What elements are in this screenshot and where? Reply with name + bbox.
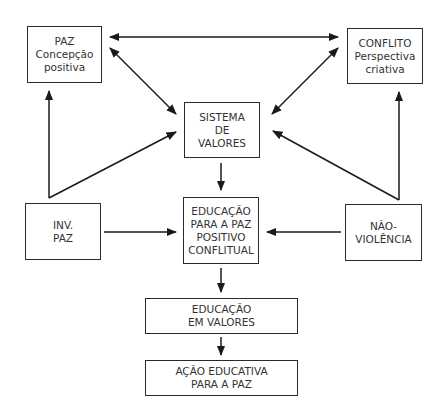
node-sistema-line-1: SISTEMA [199, 111, 245, 124]
node-acaoeducativa-line-2: PARA A PAZ [191, 378, 252, 391]
node-conflito-line-2: Perspectiva [355, 50, 416, 63]
node-inv-paz: INV. PAZ [25, 203, 101, 260]
node-educacaopaz-line-1: EDUCAÇÃO [191, 205, 250, 218]
edge-conflito-sistema [272, 48, 338, 114]
node-sistema-line-2: DE [215, 124, 230, 137]
node-nao-violencia: NÃO- VIOLÊNCIA [345, 204, 422, 261]
node-invpaz-line-1: INV. [53, 219, 73, 232]
node-educacaopaz-line-2: PARA A PAZ [191, 218, 252, 231]
edge-naoviolencia-sistema [273, 131, 399, 200]
node-paz: PAZ Concepção positiva [27, 26, 102, 83]
node-conflito: CONFLITO Perspectiva criativa [347, 28, 423, 84]
node-educacaopaz-line-4: CONFLITUAL [188, 244, 254, 257]
node-conflito-line-1: CONFLITO [358, 37, 411, 50]
node-paz-line-3: positiva [44, 61, 85, 74]
node-conflito-line-3: criativa [365, 63, 404, 76]
edge-paz-sistema [110, 48, 176, 114]
node-paz-line-1: PAZ [54, 35, 74, 48]
node-sistema-de-valores: SISTEMA DE VALORES [184, 102, 260, 158]
node-sistema-line-3: VALORES [198, 137, 246, 150]
node-educacaovalores-line-2: EM VALORES [188, 316, 255, 329]
node-educacao-para-a-paz: EDUCAÇÃO PARA A PAZ POSITIVO CONFLITUAL [183, 197, 259, 264]
node-paz-line-2: Concepção [36, 48, 94, 61]
node-acaoeducativa-line-1: AÇÃO EDUCATIVA [175, 365, 267, 378]
node-educacaopaz-line-3: POSITIVO [196, 231, 245, 244]
node-educacaovalores-line-1: EDUCAÇÃO [192, 303, 251, 316]
node-invpaz-line-2: PAZ [53, 232, 73, 245]
node-naoviolencia-line-2: VIOLÊNCIA [355, 233, 412, 246]
node-naoviolencia-line-1: NÃO- [370, 220, 397, 233]
edge-invpaz-sistema [49, 132, 176, 198]
node-educacao-em-valores: EDUCAÇÃO EM VALORES [145, 298, 298, 334]
node-acao-educativa: AÇÃO EDUCATIVA PARA A PAZ [145, 360, 298, 396]
